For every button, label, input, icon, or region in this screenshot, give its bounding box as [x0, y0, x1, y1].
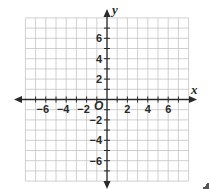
y-tick-label: −6	[89, 155, 102, 167]
y-tick-label: −2	[89, 114, 102, 126]
y-axis-up-arrow-icon	[104, 9, 111, 17]
x-axis-left-arrow-icon	[14, 96, 22, 103]
x-axis-label: x	[190, 82, 198, 97]
coordinate-plane: −6−4−2246642−2−4−6 x y O	[0, 0, 209, 189]
origin-label: O	[94, 99, 104, 113]
axes	[14, 9, 197, 189]
y-axis-label: y	[110, 2, 118, 17]
y-tick-label: 2	[96, 73, 102, 85]
x-tick-label: 2	[124, 103, 130, 115]
page-corner-mark	[201, 183, 209, 189]
x-axis-right-arrow-icon	[189, 96, 197, 103]
y-axis-down-arrow-icon	[104, 181, 111, 189]
x-tick-label: −4	[57, 103, 70, 115]
x-tick-label: −2	[77, 103, 90, 115]
y-tick-label: 6	[96, 32, 102, 44]
x-tick-label: 4	[145, 103, 152, 115]
y-tick-label: 4	[96, 53, 103, 65]
x-tick-label: 6	[165, 103, 171, 115]
x-tick-label: −6	[37, 103, 50, 115]
y-tick-label: −4	[89, 134, 102, 146]
